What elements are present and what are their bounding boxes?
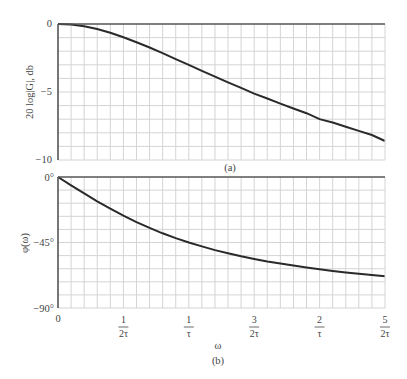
x-axis-label: ω xyxy=(215,340,222,351)
phase-panel: 0° −45° −90° φ(ω) 0 12τ1τ32τ2τ52τ ω (b) xyxy=(19,172,390,367)
magnitude-grid xyxy=(58,24,385,160)
x-tick-numerator: 3 xyxy=(252,314,257,325)
x-tick-denominator: τ xyxy=(187,328,191,339)
magnitude-panel: 0 −5 −10 20 log|G|, db (a) xyxy=(24,18,385,174)
phase-grid xyxy=(58,177,385,308)
x-tick-numerator: 5 xyxy=(383,314,388,325)
x-tick-labels: 12τ1τ32τ2τ52τ xyxy=(118,314,390,339)
x-tick-numerator: 1 xyxy=(121,314,126,325)
phase-y-tick-minus45: −45° xyxy=(33,237,54,248)
x-tick-denominator: 2τ xyxy=(119,328,128,339)
x-tick-label: 2τ xyxy=(315,314,325,339)
phase-curve xyxy=(58,177,385,276)
x-tick-label: 52τ xyxy=(380,314,390,339)
magnitude-curve xyxy=(58,24,385,141)
x-tick-denominator: 2τ xyxy=(250,328,259,339)
magnitude-y-tick-0: 0 xyxy=(47,18,52,29)
x-tick-numerator: 1 xyxy=(186,314,191,325)
magnitude-y-tick-minus10: −10 xyxy=(36,154,52,165)
x-tick-numerator: 2 xyxy=(317,314,322,325)
x-tick-denominator: 2τ xyxy=(380,328,389,339)
magnitude-y-tick-minus5: −5 xyxy=(41,86,52,97)
phase-y-tick-minus90: −90° xyxy=(33,303,54,314)
phase-y-axis-label: φ(ω) xyxy=(19,233,31,253)
x-tick-0: 0 xyxy=(55,313,60,324)
phase-caption: (b) xyxy=(212,355,225,367)
x-tick-denominator: τ xyxy=(318,328,322,339)
x-tick-label: 32τ xyxy=(249,314,259,339)
bode-plot-figure: 0 −5 −10 20 log|G|, db (a) 0° −45° −90° … xyxy=(0,0,407,379)
magnitude-caption: (a) xyxy=(224,162,236,174)
x-tick-label: 12τ xyxy=(118,314,128,339)
phase-y-tick-0: 0° xyxy=(45,172,54,183)
x-tick-label: 1τ xyxy=(184,314,194,339)
magnitude-y-axis-label: 20 log|G|, db xyxy=(24,65,35,119)
